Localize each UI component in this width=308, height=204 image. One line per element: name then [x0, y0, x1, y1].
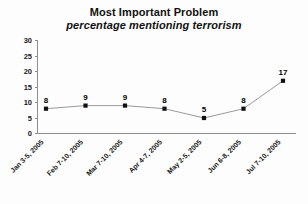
- y-tick-label: 10: [24, 98, 32, 107]
- x-tick-label: Jul 7-10, 2005: [245, 138, 283, 176]
- data-point-marker: [44, 107, 48, 111]
- data-point-label: 5: [202, 105, 207, 114]
- data-point-label: 8: [44, 96, 49, 105]
- x-tick-label: Apr 4-7, 2005: [127, 138, 164, 175]
- line-chart-plot: 051015202530 89985817 Jan 3-5, 2005Feb 7…: [0, 0, 308, 204]
- chart-figure: Most Important Problem percentage mentio…: [0, 0, 308, 204]
- x-tick-label: Feb 7-10, 2005: [45, 138, 85, 178]
- data-point-label: 8: [162, 96, 167, 105]
- data-point-label: 8: [241, 96, 246, 105]
- y-tick-label: 15: [24, 83, 32, 92]
- x-tick-label: Jan 3-5, 2005: [9, 138, 46, 175]
- x-axis-tick-labels: Jan 3-5, 2005Feb 7-10, 2005Mar 7-10, 200…: [9, 138, 283, 178]
- y-tick-label: 0: [28, 129, 32, 138]
- y-axis: 051015202530: [24, 36, 38, 138]
- y-tick-label: 5: [28, 114, 32, 123]
- data-point-marker: [281, 79, 285, 83]
- data-point-marker: [123, 104, 127, 108]
- data-point-label: 9: [83, 93, 88, 102]
- data-point-marker: [162, 107, 166, 111]
- data-point-label: 17: [279, 68, 288, 77]
- x-tick-label: Jun 6-8, 2005: [206, 138, 243, 175]
- x-tick-label: Mar 7-10, 2005: [85, 138, 125, 178]
- data-point-marker: [241, 107, 245, 111]
- data-point-label: 9: [123, 93, 128, 102]
- data-point-marker: [202, 116, 206, 120]
- data-point-marker: [83, 104, 87, 108]
- y-tick-label: 25: [24, 52, 32, 61]
- y-tick-label: 20: [24, 67, 32, 76]
- y-tick-label: 30: [24, 36, 32, 45]
- x-tick-label: May 2-5, 2005: [166, 138, 204, 176]
